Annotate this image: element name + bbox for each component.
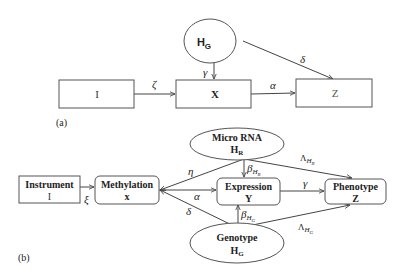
node-methylation: Methylation x	[95, 176, 159, 204]
node-phenotype-symbol: Z	[352, 193, 359, 204]
node-x: X	[176, 80, 251, 108]
node-instrument-title: Instrument	[25, 179, 74, 190]
edge-label-delta: δ	[186, 205, 192, 217]
node-methylation-symbol: x	[125, 191, 130, 202]
panel-a-label: (a)	[56, 117, 67, 129]
panel-b-label: (b)	[18, 252, 30, 264]
node-i: I	[59, 80, 134, 108]
node-phenotype: Phenotype Z	[325, 179, 386, 204]
node-microrna: Micro RNA HR	[190, 128, 284, 160]
node-hg: HG	[184, 19, 236, 63]
edge-label-alpha: α	[194, 190, 200, 202]
edge-label-eta: η	[188, 165, 193, 177]
causal-diagram: ζ γ α δ HG I X Z (a)	[0, 0, 405, 278]
node-z: Z	[296, 79, 372, 107]
edge-label-alpha: α	[270, 79, 276, 91]
node-hg-subscript: G	[205, 42, 211, 51]
edge-label-beta-hg: βHG	[240, 208, 256, 223]
node-x-label: X	[211, 88, 219, 100]
edge-label-xi: ξ	[84, 193, 89, 206]
panel-a: ζ γ α δ HG I X Z (a)	[56, 19, 372, 129]
node-expression-title: Expression	[225, 181, 272, 192]
node-phenotype-title: Phenotype	[333, 181, 379, 192]
node-genotype: Genotype HG	[190, 223, 284, 263]
node-genotype-title: Genotype	[216, 232, 258, 243]
edge-label-gamma: γ	[203, 66, 208, 78]
edge-label-delta: δ	[300, 53, 306, 65]
edge-label-lambda-hr: ΛHR	[300, 153, 315, 166]
node-z-label: Z	[332, 87, 339, 99]
node-i-label: I	[95, 88, 99, 100]
edge-label-beta-hr: βHR	[246, 162, 261, 177]
node-hg-label: H	[197, 36, 205, 48]
edge-hg-to-z	[243, 41, 333, 79]
node-instrument-symbol: I	[48, 191, 51, 202]
node-microrna-title: Micro RNA	[212, 132, 263, 143]
edge-x-to-z	[251, 93, 295, 94]
node-expression: Expression Y	[217, 178, 280, 205]
node-expression-symbol: Y	[245, 193, 253, 204]
edge-label-gamma: γ	[303, 177, 308, 189]
node-instrument: Instrument I	[19, 176, 80, 203]
edge-label-lambda-hg: ΛHG	[298, 222, 314, 235]
panel-b: ξ η α δ γ βHR βHG ΛHR ΛHG Instrument I M…	[18, 128, 386, 264]
edge-label-zeta: ζ	[152, 78, 158, 91]
node-methylation-title: Methylation	[101, 179, 154, 190]
